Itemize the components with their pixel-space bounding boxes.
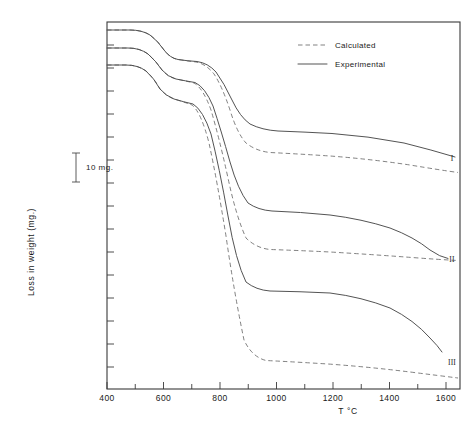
x-tick-label-1400: 1400 [379,393,400,403]
curve-1-calculated [107,30,458,173]
legend-label-calculated: Calculated [335,41,376,50]
scale-bar-label: 10 mg. [86,163,113,172]
curve-2-calculated [107,48,458,261]
curve-3-experimental [107,65,442,352]
x-tick-label-600: 600 [156,393,171,403]
x-tick-label-1000: 1000 [266,393,287,403]
curve-1-experimental [107,30,455,157]
curve-3-calculated [107,65,458,378]
curve-2-experimental [107,48,448,259]
y-axis-ticks [107,45,114,367]
x-tick-label-800: 800 [212,393,227,403]
x-tick-label-1200: 1200 [323,393,344,403]
curve-label-three: III [448,358,456,367]
x-axis-title: T °C [338,406,357,416]
x-axis-major-ticks [107,382,446,389]
x-tick-label-400: 400 [99,393,114,403]
tga-chart-figure: 400 600 800 1000 1200 1400 1600 T °C Los… [0,0,473,430]
curve-label-two: II [449,255,455,264]
plot-frame [107,22,460,389]
y-axis-title: Loss in weight (mg.) [26,208,36,296]
legend-label-experimental: Experimental [335,60,385,69]
x-tick-label-1600: 1600 [436,393,457,403]
legend: Calculated Experimental [298,41,385,69]
curve-label-one: I [451,154,454,163]
